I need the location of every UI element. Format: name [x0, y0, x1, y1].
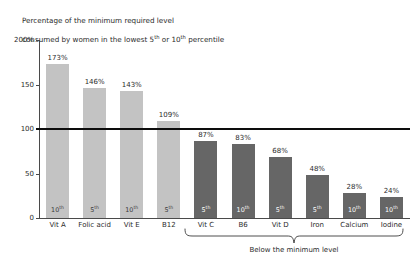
plot-area: 050100150200% 173%10thVit A146%5thFolic …: [39, 40, 410, 218]
bar-value-label: 48%: [309, 165, 325, 173]
bar-b12[interactable]: [157, 121, 180, 218]
bar-vit-a[interactable]: [46, 64, 69, 218]
bar-value-label: 24%: [384, 187, 400, 195]
bar-value-label: 109%: [159, 111, 179, 119]
x-axis-category-label: Vit E: [124, 221, 140, 229]
minimum-level-reference-line: [36, 128, 410, 130]
below-minimum-label: Below the minimum level: [183, 246, 405, 254]
bar-value-label: 68%: [272, 147, 288, 155]
x-axis-category-label: B12: [162, 221, 176, 229]
chart-title: Percentage of the minimum required level…: [22, 6, 322, 44]
y-axis-tick: [36, 218, 40, 219]
bar-percentile-label: 10th: [348, 206, 361, 214]
y-axis-label: 100: [21, 125, 34, 133]
y-axis-label: 200%: [14, 36, 34, 44]
bar-percentile-label: 10th: [125, 206, 138, 214]
bar-percentile-label: 5th: [90, 206, 99, 214]
bar-percentile-label: 5th: [164, 206, 173, 214]
chart-title-line1: Percentage of the minimum required level: [22, 16, 174, 25]
y-axis-label: 0: [30, 214, 34, 222]
bar-value-label: 28%: [347, 183, 363, 191]
bar-value-label: 143%: [122, 81, 142, 89]
bar-vit-e[interactable]: [120, 91, 143, 218]
x-axis-category-label: Vit A: [49, 221, 65, 229]
bar-percentile-label: 10th: [237, 206, 250, 214]
below-minimum-brace: [183, 228, 405, 244]
bar-percentile-label: 5th: [202, 206, 211, 214]
bar-percentile-label: 5th: [313, 206, 322, 214]
y-axis-label: 50: [25, 170, 34, 178]
brace-icon: [183, 228, 405, 244]
bar-value-label: 83%: [235, 134, 251, 142]
bar-value-label: 146%: [85, 78, 105, 86]
x-axis-line: [39, 218, 410, 219]
bar-percentile-label: 5th: [276, 206, 285, 214]
bar-percentile-label: 10th: [385, 206, 398, 214]
bar-value-label: 87%: [198, 131, 214, 139]
bar-percentile-label: 10th: [51, 206, 64, 214]
x-axis-category-label: Folic acid: [78, 221, 111, 229]
bar-folic-acid[interactable]: [83, 88, 106, 218]
y-axis-label: 150: [21, 81, 34, 89]
bar-value-label: 173%: [48, 54, 68, 62]
